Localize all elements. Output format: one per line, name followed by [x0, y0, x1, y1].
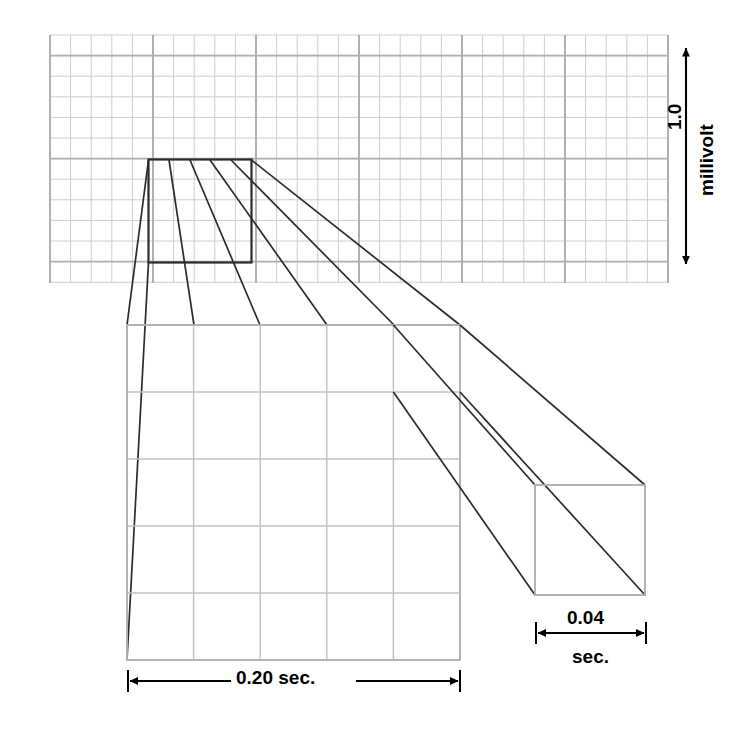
ecg-calibration-figure: 1.0 millivolt 0.20 sec. 0.04 sec. [0, 0, 741, 734]
connector-line-2 [169, 160, 194, 325]
magnified-large-box [127, 325, 460, 660]
small-connector-line-3 [393, 392, 535, 595]
millivolt-value-label: 1.0 [665, 104, 684, 130]
connector-line-1 [127, 160, 149, 325]
magnified-small-box [535, 485, 645, 595]
connector-line-3 [190, 160, 260, 325]
small-connector-line-1 [393, 325, 535, 485]
duration-small-value-label: 0.04 [567, 608, 604, 627]
small-box-connector-lines [393, 325, 645, 595]
duration-small-unit-label: sec. [572, 647, 609, 666]
connector-line-6 [252, 160, 461, 325]
connector-line-4 [210, 160, 327, 325]
magnification-connector-lines [127, 160, 460, 660]
connector-line-7 [127, 263, 149, 661]
duration-large-label: 0.20 sec. [236, 668, 315, 687]
small-connector-line-4 [460, 392, 645, 595]
millivolt-unit-label: millivolt [697, 124, 716, 196]
magnified-box-border [127, 325, 460, 660]
magnified-box-subdivision-lines [127, 325, 460, 660]
figure-canvas [0, 0, 741, 734]
small-connector-line-2 [460, 325, 645, 485]
highlighted-large-box [149, 160, 252, 263]
